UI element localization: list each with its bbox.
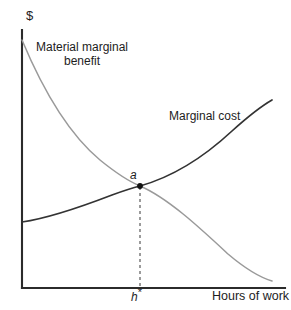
x-tick-label-h-star: h*	[131, 290, 142, 304]
y-axis-label: $	[26, 8, 33, 23]
x-tick-label-base: h	[131, 290, 138, 304]
marginal-cost-label: Marginal cost	[169, 109, 240, 123]
x-tick-label-star: *	[138, 286, 142, 298]
marginal-benefit-cost-figure: $ Material marginal benefit Marginal cos…	[0, 0, 291, 310]
equilibrium-point-label: a	[130, 168, 137, 182]
equilibrium-point-marker	[137, 183, 143, 189]
x-axis-label: Hours of work	[212, 289, 289, 304]
material-marginal-benefit-curve	[22, 40, 272, 281]
material-marginal-benefit-label: Material marginal benefit	[30, 40, 134, 68]
